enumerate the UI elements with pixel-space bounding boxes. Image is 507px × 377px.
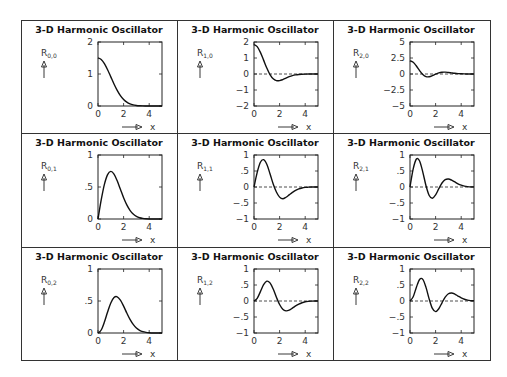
curve-line	[410, 61, 474, 77]
y-tick-label: 1	[243, 150, 249, 160]
y-axis-label: R0,0	[41, 48, 57, 59]
x-tick-label: 0	[407, 109, 413, 119]
x-tick-label: 0	[251, 336, 257, 346]
x-axis-label: x	[306, 235, 312, 245]
x-tick-label: 0	[95, 109, 101, 119]
y-tick-label: −.5	[389, 198, 405, 208]
x-tick-label: 2	[121, 336, 127, 346]
panel-R21: 3-D Harmonic Oscillator−1−.50.51024R2,1x	[347, 137, 475, 245]
y-tick-label: 1	[243, 53, 249, 63]
y-tick-label: 0	[243, 296, 249, 306]
y-tick-label: 0	[87, 214, 93, 224]
y-tick-label: 1	[399, 264, 405, 274]
y-tick-label: 1	[87, 150, 93, 160]
y-tick-label: −2	[236, 101, 249, 111]
x-tick-label: 0	[407, 336, 413, 346]
y-tick-label: 0	[399, 182, 405, 192]
x-axis-label: x	[150, 122, 156, 132]
y-axis-label: R1,1	[197, 161, 213, 172]
x-tick-label: 4	[146, 109, 152, 119]
x-tick-label: 2	[433, 109, 439, 119]
y-tick-label: −1	[236, 214, 249, 224]
x-tick-label: 0	[251, 109, 257, 119]
y-axis-label: R0,2	[41, 275, 57, 286]
y-tick-label: 2.5	[391, 53, 405, 63]
y-axis-label: R2,2	[353, 275, 369, 286]
y-tick-label: 1	[243, 264, 249, 274]
curve-line	[98, 171, 162, 219]
panel-title: 3-D Harmonic Oscillator	[35, 251, 163, 262]
x-tick-label: 4	[302, 336, 308, 346]
y-tick-label: 1	[87, 264, 93, 274]
x-axis-label: x	[306, 122, 312, 132]
curve-line	[98, 297, 162, 333]
y-tick-label: 1	[87, 69, 93, 79]
y-tick-label: −1	[236, 328, 249, 338]
y-tick-label: −1	[392, 214, 405, 224]
y-axis-label: R1,0	[197, 48, 213, 59]
panel-R01: 3-D Harmonic Oscillator0.51024R0,1x	[35, 137, 163, 245]
x-tick-label: 2	[277, 222, 283, 232]
y-tick-label: −1	[392, 328, 405, 338]
curve-line	[410, 278, 474, 311]
y-tick-label: −2.5	[383, 85, 405, 95]
y-axis-label: R0,1	[41, 161, 57, 172]
y-tick-label: −.5	[233, 198, 249, 208]
panel-R10: 3-D Harmonic Oscillator−2−1012024R1,0x	[191, 24, 319, 132]
x-axis-label: x	[150, 235, 156, 245]
curve-line	[254, 45, 318, 81]
y-tick-label: 2	[87, 37, 93, 47]
x-tick-label: 0	[407, 222, 413, 232]
y-tick-label: .5	[396, 166, 405, 176]
panel-R02: 3-D Harmonic Oscillator0.51024R0,2x	[35, 251, 163, 359]
y-tick-label: −5	[392, 101, 405, 111]
x-tick-label: 4	[302, 109, 308, 119]
y-axis-label: R1,2	[197, 275, 213, 286]
y-tick-label: 0	[87, 328, 93, 338]
y-axis-label: R2,0	[353, 48, 369, 59]
panel-title: 3-D Harmonic Oscillator	[35, 24, 163, 35]
panel-R11: 3-D Harmonic Oscillator−1−.50.51024R1,1x	[191, 137, 319, 245]
panel-R22: 3-D Harmonic Oscillator−1−.50.51024R2,2x	[347, 251, 475, 359]
y-tick-label: 0	[399, 69, 405, 79]
x-tick-label: 4	[458, 109, 464, 119]
x-tick-label: 4	[146, 222, 152, 232]
y-tick-label: 0	[87, 101, 93, 111]
curve-line	[254, 160, 318, 199]
panel-title: 3-D Harmonic Oscillator	[35, 137, 163, 148]
plot-area	[98, 42, 162, 106]
y-tick-label: −1	[236, 85, 249, 95]
chart-grid: 3-D Harmonic Oscillator012024R0,0x3-D Ha…	[0, 0, 507, 377]
x-tick-label: 0	[251, 222, 257, 232]
y-tick-label: 2	[243, 37, 249, 47]
panel-R00: 3-D Harmonic Oscillator012024R0,0x	[35, 24, 163, 132]
y-tick-label: 1	[399, 150, 405, 160]
panel-title: 3-D Harmonic Oscillator	[191, 24, 319, 35]
x-axis-label: x	[462, 235, 468, 245]
x-tick-label: 2	[121, 222, 127, 232]
x-axis-label: x	[306, 349, 312, 359]
y-tick-label: .5	[84, 296, 93, 306]
curve-line	[410, 158, 474, 198]
x-tick-label: 4	[302, 222, 308, 232]
x-axis-label: x	[150, 349, 156, 359]
panel-title: 3-D Harmonic Oscillator	[191, 137, 319, 148]
x-tick-label: 2	[277, 336, 283, 346]
x-axis-label: x	[462, 122, 468, 132]
x-tick-label: 0	[95, 222, 101, 232]
plot-area	[98, 269, 162, 333]
y-tick-label: .5	[240, 280, 249, 290]
x-tick-label: 2	[433, 222, 439, 232]
y-tick-label: 0	[399, 296, 405, 306]
y-tick-label: 0	[243, 182, 249, 192]
panel-R12: 3-D Harmonic Oscillator−1−.50.51024R1,2x	[191, 251, 319, 359]
panel-title: 3-D Harmonic Oscillator	[347, 137, 475, 148]
curve-line	[254, 281, 318, 311]
y-tick-label: −.5	[233, 312, 249, 322]
x-tick-label: 4	[458, 336, 464, 346]
x-tick-label: 4	[146, 336, 152, 346]
x-tick-label: 2	[277, 109, 283, 119]
panel-title: 3-D Harmonic Oscillator	[347, 24, 475, 35]
panel-title: 3-D Harmonic Oscillator	[347, 251, 475, 262]
panel-R20: 3-D Harmonic Oscillator−5−2.502.55024R2,…	[347, 24, 475, 132]
